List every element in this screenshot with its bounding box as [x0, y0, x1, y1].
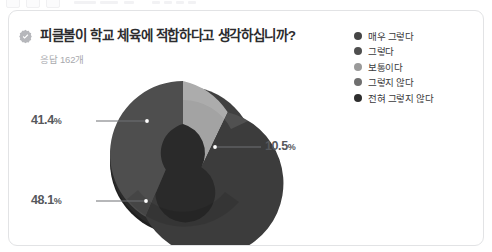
legend-item-label: 그렇다	[368, 44, 394, 58]
donut-3d-shadow	[110, 86, 256, 235]
legend-color-dot-icon	[354, 94, 362, 102]
response-count: 응답 162개	[40, 52, 84, 66]
toolbar-ghost-text-3	[124, 1, 134, 4]
percent-sign: %	[288, 142, 296, 152]
legend-color-dot-icon	[354, 32, 362, 40]
legend-item-label: 보통이다	[368, 60, 403, 74]
toolbar-ghost-button-3	[46, 0, 60, 8]
survey-result-card: 피클볼이 학교 체육에 적합하다고 생각하십니까? 응답 162개 매우 그렇다…	[8, 10, 484, 246]
toolbar-ghost-text-6	[176, 1, 184, 4]
toolbar-ghost-text-1	[74, 1, 96, 4]
question-title: 피클볼이 학교 체육에 적합하다고 생각하십니까?	[40, 27, 296, 44]
toolbar-ghost-text-4	[152, 1, 160, 4]
cropped-toolbar-strip	[0, 0, 492, 9]
toolbar-ghost-text-7	[188, 1, 196, 4]
toolbar-ghost-button-1	[6, 0, 20, 8]
legend-item[interactable]: 그렇지 않다	[354, 75, 484, 90]
legend-color-dot-icon	[354, 47, 362, 55]
percent-label-lower-left: 48.1%	[31, 193, 61, 207]
legend-color-dot-icon	[354, 78, 362, 86]
percent-sign: %	[54, 196, 62, 206]
percent-sign: %	[54, 116, 62, 126]
legend-item[interactable]: 매우 그렇다	[354, 28, 484, 43]
legend-color-dot-icon	[354, 63, 362, 71]
legend-item[interactable]: 전혀 그렇지 않다	[354, 90, 484, 105]
legend-item[interactable]: 보통이다	[354, 59, 484, 74]
chart-legend: 매우 그렇다 그렇다 보통이다 그렇지 않다 전혀 그렇지 않다	[354, 28, 484, 106]
toolbar-ghost-text-2	[100, 1, 118, 4]
label-leader-lines	[96, 119, 261, 203]
slice-10-5[interactable]	[183, 81, 228, 167]
toolbar-ghost-text-5	[164, 1, 172, 4]
slice-41-4[interactable]	[110, 81, 183, 217]
screenshot-root: 피클볼이 학교 체육에 적합하다고 생각하십니까? 응답 162개 매우 그렇다…	[0, 0, 492, 252]
percent-label-upper-left: 41.4%	[31, 113, 61, 127]
question-header: 피클볼이 학교 체육에 적합하다고 생각하십니까?	[18, 27, 296, 44]
percent-label-right: 10.5%	[265, 139, 295, 153]
toolbar-ghost-button-2	[26, 0, 40, 8]
slice-48-1[interactable]	[146, 112, 284, 246]
donut-bevel-shading	[127, 81, 248, 227]
legend-item-label: 매우 그렇다	[368, 29, 414, 43]
legend-item-label: 전혀 그렇지 않다	[368, 91, 434, 105]
legend-item-label: 그렇지 않다	[368, 75, 414, 89]
legend-item[interactable]: 그렇다	[354, 44, 484, 59]
verified-check-icon	[18, 29, 33, 44]
